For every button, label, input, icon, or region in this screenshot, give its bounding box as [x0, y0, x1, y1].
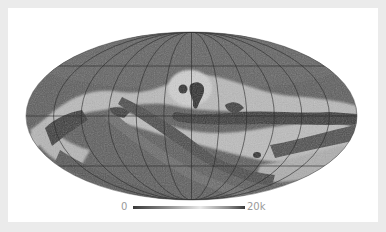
colorbar	[0, 0, 386, 232]
colorbar-min-label: 0	[121, 201, 127, 213]
colorbar-max-label: 20k	[247, 201, 266, 213]
colorbar-gradient	[133, 206, 245, 209]
